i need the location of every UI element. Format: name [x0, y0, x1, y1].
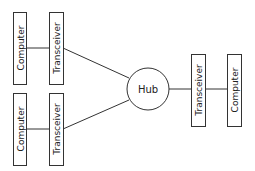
transceiver-label: Transceiver [194, 64, 204, 117]
transceiver-label: Transceiver [52, 103, 62, 156]
edge-transceiver-hub-top [63, 48, 129, 78]
transceiver-label: Transceiver [52, 22, 62, 75]
node-computer-bottom-left: Computer [14, 94, 27, 166]
node-transceiver-bottom-left: Transceiver [50, 94, 64, 166]
network-diagram: Computer Transceiver Computer Transceive… [0, 0, 255, 171]
edge-transceiver-hub-bottom [63, 100, 129, 129]
computer-label: Computer [16, 25, 26, 70]
node-transceiver-top-left: Transceiver [50, 13, 64, 85]
computer-label: Computer [16, 106, 26, 151]
node-transceiver-right: Transceiver [192, 55, 206, 127]
node-computer-right: Computer [228, 55, 242, 127]
hub-label: Hub [138, 84, 158, 95]
node-hub: Hub [127, 68, 169, 110]
node-computer-top-left: Computer [14, 13, 27, 85]
computer-label: Computer [230, 67, 240, 112]
